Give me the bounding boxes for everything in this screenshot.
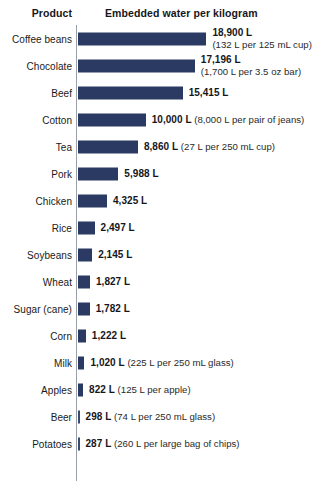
chart-row: Beef15,415 L (0, 79, 321, 106)
value-label-group: 2,145 L (98, 248, 132, 261)
bar-chicken (78, 194, 108, 207)
row-label-beer: Beer (0, 411, 72, 422)
bar-value-note: (1,700 L per 3.5 oz bar) (201, 66, 301, 79)
row-label-cotton: Cotton (0, 114, 72, 125)
chart-row: Pork5,988 L (0, 160, 321, 187)
bar-potatoes (78, 437, 80, 450)
bar-value: 287 L (86, 437, 112, 448)
bar-value-note: (125 L per apple) (115, 383, 191, 394)
bar-value: 8,860 L (144, 140, 178, 151)
chart-row: Corn1,222 L (0, 322, 321, 349)
row-label-pork: Pork (0, 168, 72, 179)
chart-row: Rice2,497 L (0, 214, 321, 241)
bar-value: 17,196 L (201, 53, 301, 66)
value-label-group: 8,860 L (27 L per 250 mL cup) (144, 140, 275, 153)
bar-rice (78, 221, 95, 234)
bar-milk (78, 356, 85, 369)
row-label-milk: Milk (0, 357, 72, 368)
row-label-wheat: Wheat (0, 276, 72, 287)
value-label-group: 298 L (74 L per 250 mL glass) (86, 410, 216, 423)
bar-value: 298 L (86, 410, 112, 421)
value-label-group: 1,020 L (225 L per 250 mL glass) (90, 356, 233, 369)
value-label-group: 15,415 L (189, 86, 229, 99)
bar-tea (78, 140, 138, 153)
bar-soybeans (78, 248, 93, 261)
chart-row: Cotton10,000 L (8,000 L per pair of jean… (0, 106, 321, 133)
row-label-tea: Tea (0, 141, 72, 152)
bar-value: 1,020 L (90, 356, 124, 367)
row-label-apples: Apples (0, 384, 72, 395)
bar-value: 5,988 L (124, 167, 158, 178)
chart-row: Sugar (cane)1,782 L (0, 295, 321, 322)
value-label-group: 4,325 L (113, 194, 147, 207)
bar-chocolate (78, 59, 195, 72)
bar-value: 18,900 L (212, 26, 311, 39)
value-label-group: 1,827 L (96, 275, 130, 288)
chart-row: Soybeans2,145 L (0, 241, 321, 268)
bar-beef (78, 86, 183, 99)
chart-row: Potatoes287 L (260 L per large bag of ch… (0, 430, 321, 457)
chart-row: Milk1,020 L (225 L per 250 mL glass) (0, 349, 321, 376)
bar-value-note: (8,000 L per pair of jeans) (192, 113, 305, 124)
chart-row: Tea8,860 L (27 L per 250 mL cup) (0, 133, 321, 160)
bar-sugar-cane (78, 302, 90, 315)
row-label-chicken: Chicken (0, 195, 72, 206)
chart-row: Apples822 L (125 L per apple) (0, 376, 321, 403)
chart-header: Product Embedded water per kilogram (0, 7, 321, 25)
bar-cotton (78, 113, 146, 126)
chart-row: Chocolate17,196 L(1,700 L per 3.5 oz bar… (0, 52, 321, 79)
value-label-group: 18,900 L(132 L per 125 mL cup) (212, 26, 311, 51)
chart-rows: Coffee beans18,900 L(132 L per 125 mL cu… (0, 25, 321, 457)
bar-value: 1,827 L (96, 275, 130, 286)
row-label-rice: Rice (0, 222, 72, 233)
value-label-group: 287 L (260 L per large bag of chips) (86, 437, 240, 450)
bar-value: 15,415 L (189, 86, 229, 97)
value-label-group: 10,000 L (8,000 L per pair of jeans) (152, 113, 305, 126)
bar-coffee-beans (78, 32, 207, 45)
chart-row: Wheat1,827 L (0, 268, 321, 295)
bar-value: 10,000 L (152, 113, 192, 124)
bar-value: 2,145 L (98, 248, 132, 259)
row-label-chocolate: Chocolate (0, 60, 72, 71)
bar-value: 1,782 L (96, 302, 130, 313)
value-label-group: 1,222 L (92, 329, 126, 342)
bar-value-note: (27 L per 250 mL cup) (178, 140, 275, 151)
embedded-water-bar-chart: Product Embedded water per kilogram Coff… (0, 0, 321, 489)
bar-value-note: (74 L per 250 mL glass) (111, 410, 215, 421)
row-label-beef: Beef (0, 87, 72, 98)
bar-value-note: (225 L per 250 mL glass) (125, 356, 234, 367)
bar-wheat (78, 275, 90, 288)
bar-corn (78, 329, 86, 342)
bar-pork (78, 167, 119, 180)
bar-value-note: (132 L per 125 mL cup) (212, 39, 311, 52)
row-label-sugar-cane: Sugar (cane) (0, 303, 72, 314)
chart-row: Beer298 L (74 L per 250 mL glass) (0, 403, 321, 430)
value-label-group: 1,782 L (96, 302, 130, 315)
column-header-product: Product (0, 7, 72, 19)
chart-row: Coffee beans18,900 L(132 L per 125 mL cu… (0, 25, 321, 52)
bar-value: 1,222 L (92, 329, 126, 340)
bar-value: 4,325 L (113, 194, 147, 205)
bar-apples (78, 383, 84, 396)
bar-value: 822 L (89, 383, 115, 394)
row-label-corn: Corn (0, 330, 72, 341)
bar-value-note: (260 L per large bag of chips) (111, 437, 239, 448)
chart-row: Chicken4,325 L (0, 187, 321, 214)
column-header-embedded-water: Embedded water per kilogram (105, 7, 258, 19)
value-label-group: 17,196 L(1,700 L per 3.5 oz bar) (201, 53, 301, 78)
row-label-coffee-beans: Coffee beans (0, 33, 72, 44)
value-label-group: 2,497 L (101, 221, 135, 234)
row-label-potatoes: Potatoes (0, 438, 72, 449)
value-label-group: 5,988 L (124, 167, 158, 180)
value-label-group: 822 L (125 L per apple) (89, 383, 191, 396)
bar-value: 2,497 L (101, 221, 135, 232)
row-label-soybeans: Soybeans (0, 249, 72, 260)
bar-beer (78, 410, 80, 423)
